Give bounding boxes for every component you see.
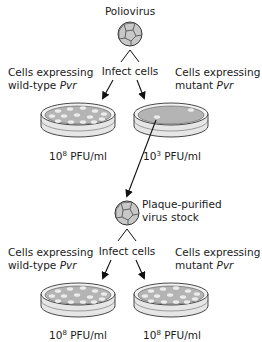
right-label2-line1: Cells expressing (175, 246, 260, 258)
wildtype-titer-2: 108 PFU/ml (49, 329, 107, 341)
right-label-line2: mutant Pvr (175, 79, 234, 91)
mutant-titer-1: 103 PFU/ml (143, 150, 201, 162)
mutant-titer-2: 108 PFU/ml (143, 329, 201, 341)
arrow-to-mutant-dish-2 (136, 260, 144, 278)
arrow-to-wildtype-dish-2 (103, 260, 111, 278)
dish-mutant-1 (134, 103, 208, 137)
dish-wildtype-1 (41, 103, 115, 137)
poliovirus-plaque-diagram: Poliovirus Infect cells Cells expressing… (0, 0, 262, 342)
right-label2-line2: mutant Pvr (175, 259, 234, 271)
arrow-to-mutant-dish (137, 80, 144, 98)
purified-label-line1: Plaque-purified (142, 198, 222, 210)
poliovirus-icon (118, 22, 142, 46)
right-label-line1: Cells expressing (175, 66, 260, 78)
arrow-to-wildtype-dish (103, 80, 113, 98)
virus-title: Poliovirus (105, 5, 155, 17)
infect-cells-label-1: Infect cells (102, 65, 159, 77)
infect-cells-label-2: Infect cells (99, 245, 156, 257)
dish-wildtype-2 (41, 283, 115, 317)
purified-label-line2: virus stock (142, 211, 200, 223)
dish-mutant-2 (134, 283, 208, 317)
left-label2-line1: Cells expressing (8, 246, 93, 258)
left-label-line2: wild-type Pvr (8, 79, 77, 91)
wildtype-titer-1: 108 PFU/ml (49, 150, 107, 162)
left-label-line1: Cells expressing (8, 66, 93, 78)
left-label2-line2: wild-type Pvr (8, 259, 77, 271)
purified-virus-icon (115, 201, 139, 225)
